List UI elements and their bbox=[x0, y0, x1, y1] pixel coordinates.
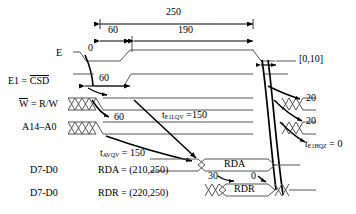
signal-label-w: W = R/W bbox=[19, 98, 58, 109]
signal-label-data-r: D7-D0 bbox=[30, 188, 58, 198]
annotation-bus-0: 0 bbox=[251, 171, 256, 181]
dimension-190-label: 190 bbox=[178, 25, 193, 35]
expression-rda: RDA = (210,250) bbox=[98, 165, 168, 175]
arrow-bus-30 bbox=[218, 176, 234, 181]
dimension-0-10 bbox=[261, 61, 296, 65]
dimension-60-label: 60 bbox=[108, 25, 118, 35]
arrow-right-20-b bbox=[274, 100, 302, 121]
t-avqv-subscript: AVQV bbox=[103, 152, 120, 158]
annotation-t-e1lqv: tE1LQV =150 bbox=[162, 110, 207, 120]
bus-value-rdr: RDR bbox=[234, 184, 255, 194]
annotation-e-zero: 0 bbox=[88, 43, 93, 53]
csd-overline-text: CSD bbox=[30, 75, 49, 86]
dimension-250 bbox=[100, 19, 253, 29]
arrow-e1-to-w bbox=[88, 88, 107, 95]
waveform-addr bbox=[68, 122, 316, 134]
annotation-range-0-10: [0,10] bbox=[299, 54, 323, 64]
waveform-rdr bbox=[205, 184, 316, 196]
signal-label-addr: A14–A0 bbox=[22, 122, 56, 132]
annotation-e1-60: 60 bbox=[99, 73, 109, 83]
bus-value-rda: RDA bbox=[224, 159, 245, 169]
signal-label-e1: E1 = CSD bbox=[8, 75, 49, 86]
annotation-right-20-a: 20 bbox=[306, 93, 316, 103]
dimension-250-label: 250 bbox=[166, 7, 181, 17]
expression-rdr: RDR = (220,250) bbox=[98, 188, 168, 198]
waveform-e bbox=[73, 50, 275, 61]
annotation-t-avqv: tAVQV = 150 bbox=[100, 148, 145, 158]
annotation-w-60: 60 bbox=[114, 112, 124, 122]
arrow-e-to-e1 bbox=[85, 55, 93, 86]
annotation-t-e1hqz: tE1HQZ = 0 bbox=[305, 139, 342, 149]
timing-diagram-canvas: 250 60 190 E E1 = CSD W = R/W A14–A0 D7-… bbox=[0, 0, 356, 214]
signal-label-e: E bbox=[56, 48, 62, 58]
t-e1hqz-value: = 0 bbox=[327, 138, 343, 149]
signal-label-data-a: D7-D0 bbox=[30, 165, 58, 175]
w-rest: = R/W bbox=[28, 98, 58, 109]
arrow-bus-0 bbox=[258, 176, 266, 182]
annotation-right-20-b: 20 bbox=[306, 116, 316, 126]
annotation-bus-30: 30 bbox=[208, 171, 218, 181]
t-e1lqv-value: =150 bbox=[184, 109, 207, 120]
t-e1lqv-subscript: E1LQV bbox=[165, 114, 184, 120]
t-avqv-value: = 150 bbox=[119, 147, 145, 158]
e1-prefix: E1 = bbox=[8, 75, 30, 86]
t-e1hqz-subscript: E1HQZ bbox=[308, 143, 327, 149]
